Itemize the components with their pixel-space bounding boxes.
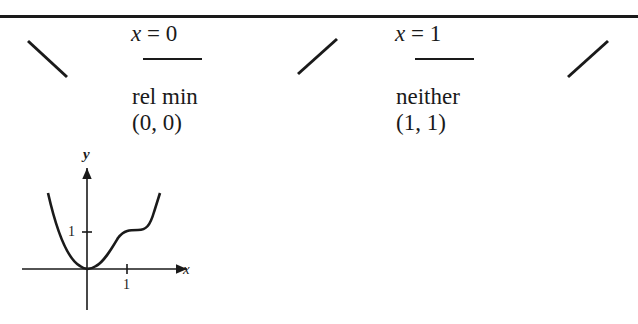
x-tick-label: 1	[123, 278, 130, 292]
y-axis-label: y	[83, 147, 90, 162]
x-axis-label: x	[183, 262, 190, 277]
y-tick-label: 1	[68, 225, 75, 239]
function-curve	[48, 193, 160, 269]
function-graph	[0, 0, 638, 324]
